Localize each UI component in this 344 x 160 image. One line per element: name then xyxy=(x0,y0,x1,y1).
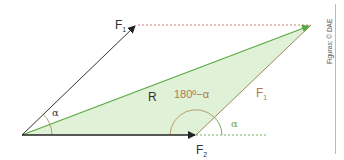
parallelogram-diagram: F1 F1 F2 R α α 180º−α xyxy=(0,0,344,160)
label-alpha-origin: α xyxy=(52,107,59,118)
label-alpha-right: α xyxy=(231,118,238,129)
label-f1-top: F1 xyxy=(115,18,126,33)
label-f1-side: F1 xyxy=(256,86,267,101)
credit-text: Figuras: © DAE xyxy=(326,19,333,64)
label-supplementary-angle: 180º−α xyxy=(174,88,210,100)
label-resultant: R xyxy=(148,90,157,104)
vertical-rule xyxy=(335,4,336,154)
label-f2: F2 xyxy=(196,143,207,158)
alpha-arc-right xyxy=(214,117,222,135)
